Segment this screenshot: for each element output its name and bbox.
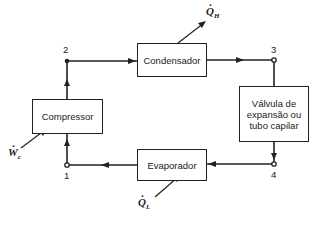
state-label-2: 2 (63, 44, 68, 55)
state-node-1 (65, 163, 69, 167)
valve-label-line2: expansão ou (247, 109, 301, 120)
condenser-box: Condensador (137, 43, 207, 77)
state-node-2 (65, 59, 70, 64)
state-node-3 (272, 58, 276, 62)
qh-label: ·QH (206, 5, 219, 20)
arrow-right-icon (236, 57, 244, 63)
arrow-left-icon (208, 161, 216, 167)
state-node-4 (272, 162, 276, 166)
wc-label: ·Wc (8, 146, 21, 161)
expansion-valve-box: Válvula de expansão ou tubo capilar (239, 86, 309, 142)
arrow-left-icon (101, 162, 109, 168)
arrow-right-icon (128, 58, 136, 64)
arrow-down-icon (271, 153, 277, 160)
qh-arrow-line (178, 23, 204, 43)
evaporator-box: Evaporador (137, 149, 207, 181)
valve-label-line1: Válvula de (252, 98, 296, 109)
state-label-4: 4 (271, 169, 276, 180)
condenser-label: Condensador (143, 55, 200, 66)
compressor-box: Compressor (32, 99, 103, 134)
state-label-1: 1 (64, 170, 69, 181)
evaporator-label: Evaporador (147, 160, 196, 171)
compressor-label: Compressor (42, 111, 94, 122)
state-label-3: 3 (271, 44, 276, 55)
valve-label-line3: tubo capilar (249, 120, 298, 131)
arrow-up-icon (64, 79, 70, 86)
ql-label: ·QL (138, 196, 150, 211)
arrow-up-icon (64, 139, 70, 146)
